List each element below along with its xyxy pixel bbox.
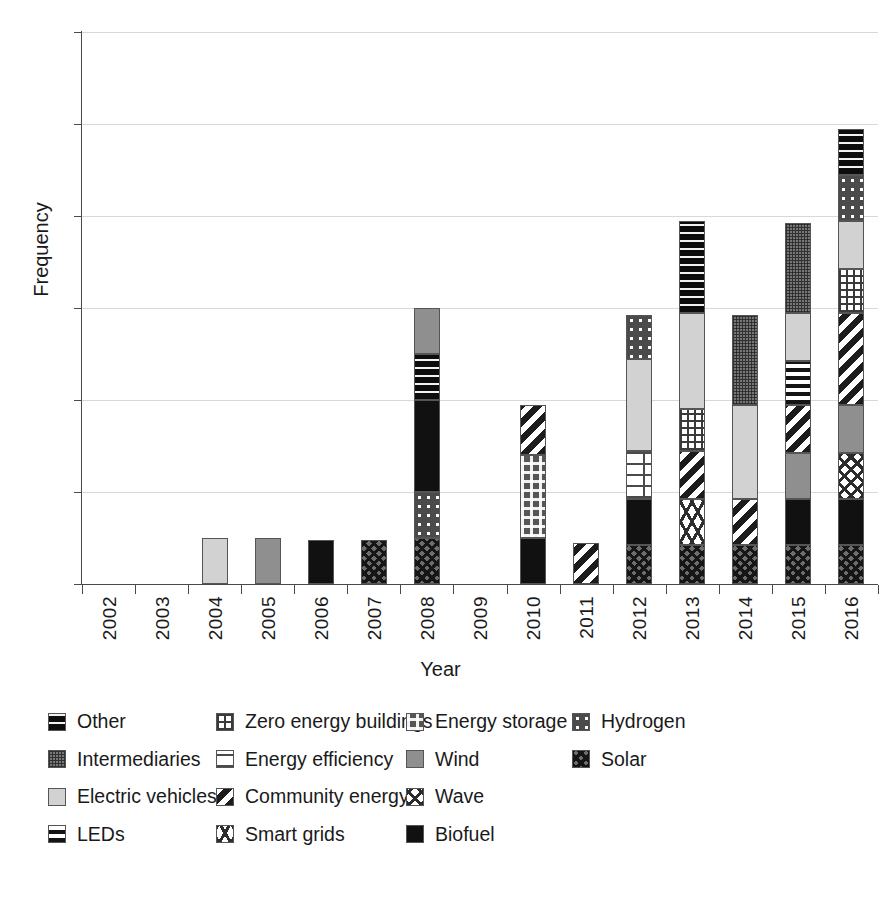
x-tick-mark bbox=[453, 585, 454, 594]
x-tick-mark bbox=[241, 585, 242, 594]
bar-segment[interactable] bbox=[520, 538, 546, 584]
bar-segment[interactable] bbox=[838, 405, 864, 453]
bar-segment[interactable] bbox=[361, 540, 387, 584]
bar-segment[interactable] bbox=[732, 499, 758, 545]
bar-segment[interactable] bbox=[520, 455, 546, 538]
legend-item[interactable]: Intermediaries bbox=[48, 750, 216, 770]
legend-item[interactable]: Other bbox=[48, 712, 216, 732]
chart-figure: Frequency 024681012 20022003200420052006… bbox=[0, 0, 881, 904]
bar-segment[interactable] bbox=[679, 451, 705, 499]
y-tick-mark bbox=[74, 216, 82, 217]
legend-swatch-icon bbox=[216, 825, 234, 843]
bar-segment[interactable] bbox=[838, 313, 864, 405]
bar-column[interactable] bbox=[679, 32, 705, 584]
x-tick-label: 2014 bbox=[735, 596, 757, 640]
bar-column[interactable] bbox=[361, 32, 387, 584]
x-tick-label: 2013 bbox=[682, 596, 704, 640]
bar-segment[interactable] bbox=[785, 313, 811, 361]
bar-segment[interactable] bbox=[414, 538, 440, 584]
bar-segment[interactable] bbox=[785, 223, 811, 313]
bar-segment[interactable] bbox=[679, 545, 705, 584]
bar-segment[interactable] bbox=[838, 499, 864, 545]
y-tick-mark bbox=[74, 492, 82, 493]
bar-segment[interactable] bbox=[520, 405, 546, 456]
bar-segment[interactable] bbox=[838, 453, 864, 499]
bar-segment[interactable] bbox=[838, 175, 864, 221]
bar-segment[interactable] bbox=[785, 499, 811, 545]
bar-segment[interactable] bbox=[414, 492, 440, 538]
legend-swatch-icon bbox=[572, 713, 590, 731]
legend-swatch-icon bbox=[572, 750, 590, 768]
y-axis-title: Frequency bbox=[30, 202, 53, 297]
bar-segment[interactable] bbox=[414, 400, 440, 492]
bar-segment[interactable] bbox=[838, 269, 864, 313]
legend-item[interactable]: Community energy bbox=[216, 787, 406, 807]
bar-segment[interactable] bbox=[679, 409, 705, 450]
legend-item[interactable]: Biofuel bbox=[406, 825, 572, 845]
bar-segment[interactable] bbox=[732, 315, 758, 405]
legend-item[interactable]: Hydrogen bbox=[572, 712, 732, 732]
bar-segment[interactable] bbox=[308, 540, 334, 584]
legend-swatch-icon bbox=[216, 788, 234, 806]
legend-item[interactable]: Solar bbox=[572, 750, 732, 770]
bar-segment[interactable] bbox=[785, 405, 811, 453]
x-tick-mark bbox=[400, 585, 401, 594]
bar-segment[interactable] bbox=[202, 538, 228, 584]
x-tick-mark bbox=[666, 585, 667, 594]
bar-segment[interactable] bbox=[732, 545, 758, 584]
bar-segment[interactable] bbox=[785, 453, 811, 499]
bar-segment[interactable] bbox=[679, 221, 705, 313]
x-tick-mark bbox=[560, 585, 561, 594]
bar-column[interactable] bbox=[732, 32, 758, 584]
bar-segment[interactable] bbox=[626, 451, 652, 499]
bar-segment[interactable] bbox=[785, 545, 811, 584]
y-tick-mark bbox=[74, 32, 82, 33]
x-tick-label: 2005 bbox=[258, 596, 280, 640]
legend-item[interactable]: Wind bbox=[406, 750, 572, 770]
bar-segment[interactable] bbox=[626, 359, 652, 451]
bar-segment[interactable] bbox=[626, 499, 652, 545]
bar-segment[interactable] bbox=[414, 354, 440, 400]
legend-label: Community energy bbox=[245, 787, 409, 807]
legend-item[interactable]: Zero energy buildings bbox=[216, 712, 406, 732]
bar-column[interactable] bbox=[573, 32, 599, 584]
legend-label: Electric vehicles bbox=[77, 787, 217, 807]
legend-swatch-icon bbox=[48, 825, 66, 843]
bar-column[interactable] bbox=[838, 32, 864, 584]
legend-item[interactable]: Electric vehicles bbox=[48, 787, 216, 807]
bar-segment[interactable] bbox=[785, 361, 811, 405]
legend-label: Zero energy buildings bbox=[245, 712, 433, 732]
bar-segment[interactable] bbox=[838, 221, 864, 269]
legend-label: Other bbox=[77, 712, 126, 732]
legend-swatch-icon bbox=[406, 825, 424, 843]
bar-column[interactable] bbox=[414, 32, 440, 584]
legend-spacer bbox=[572, 825, 732, 845]
legend-item[interactable]: Energy storage bbox=[406, 712, 572, 732]
bar-column[interactable] bbox=[255, 32, 281, 584]
legend-item[interactable]: Wave bbox=[406, 787, 572, 807]
bar-column[interactable] bbox=[785, 32, 811, 584]
bar-column[interactable] bbox=[520, 32, 546, 584]
bar-segment[interactable] bbox=[838, 129, 864, 175]
bar-segment[interactable] bbox=[573, 543, 599, 584]
x-tick-mark bbox=[188, 585, 189, 594]
legend-item[interactable]: LEDs bbox=[48, 825, 216, 845]
bar-segment[interactable] bbox=[414, 308, 440, 354]
legend-item[interactable]: Smart grids bbox=[216, 825, 406, 845]
x-tick-label: 2004 bbox=[205, 596, 227, 640]
bar-segment[interactable] bbox=[679, 499, 705, 545]
legend-label: Energy storage bbox=[435, 712, 567, 732]
bar-column[interactable] bbox=[202, 32, 228, 584]
legend-item[interactable]: Energy efficiency bbox=[216, 750, 406, 770]
bar-segment[interactable] bbox=[626, 545, 652, 584]
bar-column[interactable] bbox=[626, 32, 652, 584]
bar-segment[interactable] bbox=[838, 545, 864, 584]
bar-segment[interactable] bbox=[679, 313, 705, 410]
bar-segment[interactable] bbox=[626, 315, 652, 359]
bar-segment[interactable] bbox=[732, 405, 758, 499]
legend-label: Wave bbox=[435, 787, 484, 807]
bar-segment[interactable] bbox=[255, 538, 281, 584]
x-tick-label: 2009 bbox=[470, 596, 492, 640]
bar-column[interactable] bbox=[308, 32, 334, 584]
y-tick-mark bbox=[74, 124, 82, 125]
